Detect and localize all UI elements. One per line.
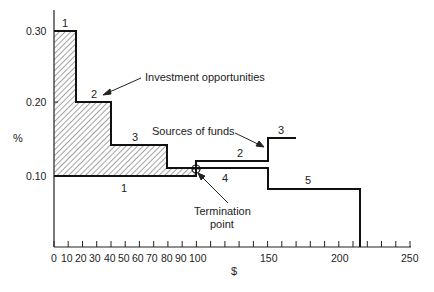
investment-opportunities-annotation: Investment opportunities xyxy=(145,71,265,83)
termination-point-annotation: Termination xyxy=(194,205,251,217)
svg-text:60: 60 xyxy=(132,252,144,264)
investment-step-label: 3 xyxy=(132,131,138,143)
investment-step-label: 4 xyxy=(222,172,228,184)
termination-point-annotation: point xyxy=(210,218,234,230)
investment-step-label: 2 xyxy=(91,88,97,100)
svg-text:50: 50 xyxy=(118,252,130,264)
y-axis-label: % xyxy=(13,132,23,144)
svg-text:30: 30 xyxy=(89,252,101,264)
investment-step-label: 1 xyxy=(62,17,68,29)
annotation-arrows xyxy=(103,78,264,203)
svg-text:70: 70 xyxy=(146,252,158,264)
y-tick-label: 0.10 xyxy=(26,170,47,182)
y-tick-label: 0.20 xyxy=(26,96,47,108)
investment-step-label: 5 xyxy=(305,174,311,186)
svg-text:200: 200 xyxy=(331,252,349,264)
svg-text:20: 20 xyxy=(75,252,87,264)
sources-step-label: 2 xyxy=(237,147,243,159)
y-tick-label: 0.30 xyxy=(26,25,47,37)
svg-text:0: 0 xyxy=(51,252,57,264)
svg-text:150: 150 xyxy=(260,252,278,264)
x-axis-label: $ xyxy=(231,265,237,277)
svg-text:250: 250 xyxy=(401,252,419,264)
sources-step-label: 1 xyxy=(121,182,127,194)
x-tick-labels: 0 10 20 30 40 50 60 70 80 90 100 150 200… xyxy=(51,252,419,264)
sources-of-funds-annotation: Sources of funds xyxy=(152,125,235,137)
x-ticks xyxy=(54,241,410,247)
svg-text:40: 40 xyxy=(104,252,116,264)
sources-step-label: 3 xyxy=(278,124,284,136)
svg-text:90: 90 xyxy=(175,252,187,264)
step-chart: 0.30 0.20 0.10 % 0 10 20 30 40 50 60 70 … xyxy=(0,0,434,292)
svg-text:80: 80 xyxy=(161,252,173,264)
svg-text:10: 10 xyxy=(61,252,73,264)
svg-text:100: 100 xyxy=(189,252,207,264)
